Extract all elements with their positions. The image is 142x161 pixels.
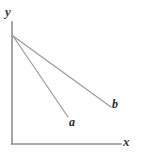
x-axis-label: x [123,135,130,148]
line-a-label: a [69,116,75,128]
diagram-canvas [0,0,142,161]
line-b [13,36,111,107]
line-diagram-figure: y x a b [0,0,142,161]
y-axis-label: y [5,5,11,18]
line-a [13,36,68,117]
line-b-label: b [112,98,118,110]
